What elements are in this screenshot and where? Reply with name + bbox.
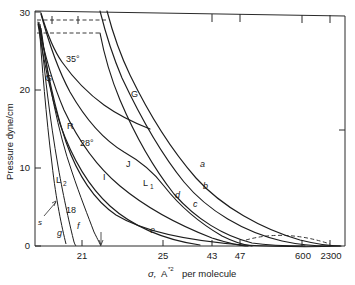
label-L1-letter: L — [143, 178, 148, 188]
ytick-label-20: 20 — [19, 84, 30, 95]
label-f: f — [77, 221, 81, 231]
xtick-label-43: 43 — [207, 250, 218, 261]
x-axis-angstrom: A — [161, 268, 168, 279]
curve-a — [107, 11, 341, 246]
xtick-label-25: 25 — [158, 250, 169, 261]
label-R: R — [67, 121, 74, 131]
label-28-degree: 28° — [80, 138, 94, 148]
label-b: b — [203, 181, 208, 191]
label-e: e — [150, 225, 155, 235]
ytick-label-10: 10 — [19, 162, 30, 173]
label-35-degree: 35° — [66, 54, 80, 64]
ytick-label-0: 0 — [25, 240, 30, 251]
axis-frame — [35, 11, 345, 246]
xtick-label-21: 21 — [77, 250, 88, 261]
chart-plot-area: 0 10 20 30 21 25 43 47 600 2300 Pressure… — [0, 0, 355, 285]
label-18: 18 — [66, 205, 76, 215]
ytick-label-30: 30 — [19, 7, 30, 18]
label-L1: L 1 — [143, 178, 154, 190]
label-L1-subscript: 1 — [150, 183, 154, 190]
label-s: s — [38, 218, 42, 227]
curve-L2 — [38, 24, 200, 245]
y-axis-title: Pressure dyne/cm — [4, 103, 15, 180]
label-a: a — [200, 159, 205, 169]
x-axis-rest: per molecule — [182, 268, 236, 279]
x-axis-exponent: *2 — [168, 266, 174, 272]
label-I: I — [103, 172, 106, 182]
label-G-right: G — [131, 89, 138, 99]
label-c: c — [193, 199, 198, 209]
axis-top — [35, 11, 345, 16]
label-G-left: G — [45, 73, 52, 83]
label-L2-letter: L — [56, 175, 61, 185]
xtick-label-2300: 2300 — [320, 250, 341, 261]
label-J: J — [126, 159, 131, 169]
label-d: d — [175, 190, 181, 200]
curve-b — [100, 11, 330, 246]
xtick-label-47: 47 — [235, 250, 246, 261]
label-L2-subscript: 2 — [63, 180, 67, 187]
x-axis-title: σ, A *2 per molecule — [148, 266, 236, 279]
xtick-label-600: 600 — [295, 250, 311, 261]
x-axis-sigma: σ, — [148, 268, 156, 279]
chart-figure: 0 10 20 30 21 25 43 47 600 2300 Pressure… — [0, 0, 355, 285]
dashed-guides-top — [37, 16, 107, 33]
s-leader-line — [44, 202, 56, 216]
curve-c — [100, 33, 305, 246]
y-axis-ticks — [35, 12, 345, 246]
label-g: g — [57, 228, 62, 238]
s-arrowhead — [52, 201, 56, 206]
